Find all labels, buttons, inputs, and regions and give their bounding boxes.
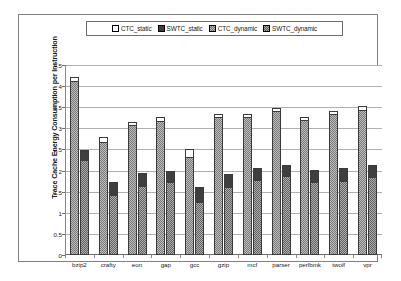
legend-label-swtc-static: SWTC_static bbox=[167, 25, 203, 32]
bar-ctc-bzip2[interactable] bbox=[70, 77, 79, 255]
bar-ctc-parser[interactable] bbox=[272, 108, 281, 255]
bar-segment-swtc-static bbox=[340, 169, 347, 182]
bar-swtc-gzip[interactable] bbox=[224, 174, 233, 255]
x-axis-tick-mark bbox=[353, 255, 354, 258]
legend-swatch-ctc-static bbox=[112, 25, 119, 32]
bar-swtc-twolf[interactable] bbox=[339, 168, 348, 255]
bar-group: gap bbox=[151, 65, 180, 255]
bar-segment-ctc-dynamic bbox=[330, 115, 337, 254]
bar-segment-swtc-dynamic bbox=[369, 178, 376, 254]
bar-segment-ctc-dynamic bbox=[71, 82, 78, 254]
bar-ctc-perlbmk[interactable] bbox=[300, 117, 309, 255]
bar-ctc-mcf[interactable] bbox=[243, 114, 252, 255]
x-axis-tick-mark bbox=[381, 255, 382, 258]
x-axis-tick-mark bbox=[180, 255, 181, 258]
bar-segment-ctc-dynamic bbox=[129, 126, 136, 254]
bar-segment-swtc-dynamic bbox=[225, 188, 232, 254]
chart-legend: CTC_static SWTC_static CTC_dynamic SWTC_… bbox=[86, 21, 343, 36]
bar-segment-swtc-dynamic bbox=[196, 203, 203, 254]
bar-swtc-parser[interactable] bbox=[282, 165, 291, 255]
y-axis-tick-label: 3.5 bbox=[53, 104, 62, 111]
x-axis-tick-mark bbox=[238, 255, 239, 258]
bar-ctc-twolf[interactable] bbox=[329, 111, 338, 255]
legend-item-swtc-static: SWTC_static bbox=[158, 25, 203, 32]
bar-segment-swtc-static bbox=[311, 171, 318, 183]
legend-item-swtc-dynamic: SWTC_dynamic bbox=[263, 25, 317, 32]
legend-item-ctc-dynamic: CTC_dynamic bbox=[209, 25, 257, 32]
x-axis-label-gzip: gzip bbox=[218, 261, 229, 268]
bar-swtc-gcc[interactable] bbox=[195, 187, 204, 255]
bar-segment-swtc-static bbox=[81, 151, 88, 160]
bar-ctc-gap[interactable] bbox=[156, 117, 165, 255]
bar-group: parser bbox=[267, 65, 296, 255]
bar-segment-swtc-dynamic bbox=[254, 181, 261, 254]
x-axis-label-twolf: twolf bbox=[332, 261, 345, 268]
bar-groups: bzip2craftyeongapgccgzipmcfparserperlbmk… bbox=[65, 65, 382, 255]
x-axis-tick-mark bbox=[296, 255, 297, 258]
x-axis-tick-mark bbox=[209, 255, 210, 258]
bar-segment-ctc-dynamic bbox=[244, 118, 251, 254]
x-axis-tick-mark bbox=[151, 255, 152, 258]
bar-ctc-gzip[interactable] bbox=[214, 114, 223, 255]
bar-group: perlbmk bbox=[296, 65, 325, 255]
bar-segment-ctc-dynamic bbox=[100, 143, 107, 254]
bar-segment-swtc-static bbox=[196, 188, 203, 203]
y-axis-tick-label: 4.5 bbox=[53, 62, 62, 69]
x-axis-label-bzip2: bzip2 bbox=[72, 261, 87, 268]
bar-ctc-eon[interactable] bbox=[128, 122, 137, 255]
x-axis-tick-mark bbox=[324, 255, 325, 258]
legend-swatch-ctc-dynamic bbox=[209, 25, 216, 32]
legend-label-swtc-dynamic: SWTC_dynamic bbox=[272, 25, 317, 32]
chart-frame: CTC_static SWTC_static CTC_dynamic SWTC_… bbox=[18, 14, 378, 262]
plot-area: 00.511.522.533.544.5 bzip2craftyeongapgc… bbox=[65, 65, 382, 255]
bar-ctc-crafty[interactable] bbox=[99, 137, 108, 255]
x-axis-tick-mark bbox=[65, 255, 66, 258]
bar-group: mcf bbox=[238, 65, 267, 255]
y-axis-tick-label: 0.5 bbox=[53, 230, 62, 237]
bar-group: vpr bbox=[353, 65, 382, 255]
legend-swatch-swtc-static bbox=[158, 25, 165, 32]
bar-swtc-eon[interactable] bbox=[138, 173, 147, 255]
bar-group: bzip2 bbox=[65, 65, 94, 255]
x-axis-label-perlbmk: perlbmk bbox=[299, 261, 321, 268]
bar-group: gzip bbox=[209, 65, 238, 255]
bar-segment-swtc-dynamic bbox=[139, 187, 146, 254]
bar-ctc-gcc[interactable] bbox=[185, 149, 194, 255]
bar-segment-swtc-dynamic bbox=[110, 196, 117, 254]
bar-swtc-vpr[interactable] bbox=[368, 165, 377, 255]
bar-swtc-perlbmk[interactable] bbox=[310, 170, 319, 255]
x-axis-tick-mark bbox=[123, 255, 124, 258]
bar-swtc-mcf[interactable] bbox=[253, 168, 262, 255]
bar-group: crafty bbox=[94, 65, 123, 255]
bar-swtc-gap[interactable] bbox=[166, 171, 175, 255]
legend-label-ctc-static: CTC_static bbox=[121, 25, 152, 32]
bar-ctc-vpr[interactable] bbox=[358, 106, 367, 255]
bar-segment-swtc-dynamic bbox=[283, 177, 290, 254]
bar-swtc-bzip2[interactable] bbox=[80, 150, 89, 255]
bar-segment-swtc-static bbox=[369, 166, 376, 178]
bar-segment-swtc-static bbox=[167, 172, 174, 183]
y-axis-title: Trace Cache Energy Consumption per Instr… bbox=[50, 23, 59, 213]
legend-label-ctc-dynamic: CTC_dynamic bbox=[218, 25, 257, 32]
x-axis-tick-mark bbox=[267, 255, 268, 258]
bar-swtc-crafty[interactable] bbox=[109, 182, 118, 255]
legend-item-ctc-static: CTC_static bbox=[112, 25, 152, 32]
bar-segment-swtc-static bbox=[225, 175, 232, 189]
bar-segment-swtc-static bbox=[283, 166, 290, 177]
bar-segment-ctc-dynamic bbox=[215, 118, 222, 254]
bar-segment-ctc-dynamic bbox=[301, 121, 308, 254]
x-axis-tick-mark bbox=[94, 255, 95, 258]
x-axis-label-parser: parser bbox=[272, 261, 290, 268]
x-axis-label-crafty: crafty bbox=[101, 261, 116, 268]
x-axis-label-eon: eon bbox=[132, 261, 142, 268]
y-axis-tick-label: 1.5 bbox=[53, 188, 62, 195]
bar-segment-swtc-dynamic bbox=[167, 183, 174, 254]
bar-segment-swtc-static bbox=[254, 169, 261, 181]
bar-segment-ctc-dynamic bbox=[157, 122, 164, 254]
bar-segment-swtc-dynamic bbox=[81, 161, 88, 254]
bar-group: twolf bbox=[324, 65, 353, 255]
bar-segment-ctc-static bbox=[186, 150, 193, 158]
bar-segment-ctc-dynamic bbox=[186, 158, 193, 254]
bar-group: gcc bbox=[180, 65, 209, 255]
bar-segment-ctc-dynamic bbox=[359, 111, 366, 254]
